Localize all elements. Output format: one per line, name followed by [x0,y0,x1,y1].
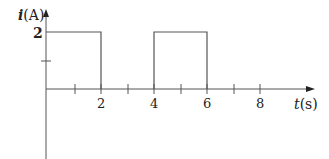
x-tick-label-8: 8 [256,96,264,111]
pulse-2 [154,32,207,89]
x-axis-label: t(s) [294,96,318,112]
y-axis-label: i(A) [18,7,44,23]
current-waveform-diagram: i(A) 2 2 4 6 8 t(s) [0,0,329,159]
x-axis-arrow-icon [306,86,315,92]
x-tick-label-4: 4 [150,96,158,111]
pulse-1 [46,32,101,89]
x-tick-label-2: 2 [97,96,105,111]
x-tick-label-6: 6 [203,96,211,111]
waveform-plot: i(A) 2 2 4 6 8 t(s) [0,0,329,159]
y-tick-label-2: 2 [33,25,43,41]
